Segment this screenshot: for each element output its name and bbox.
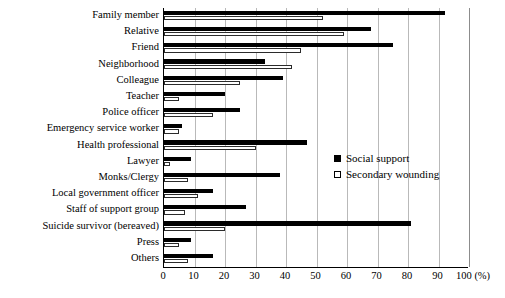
category-label: Friend [2,42,162,53]
x-tick-label-unit: 100 (%) [456,270,490,282]
bar-social-support [164,11,445,15]
x-tick-label-80: 80 [402,270,413,282]
bar-social-support [164,173,280,177]
bar-secondary-wounding [164,227,225,231]
filled-square-icon [334,155,341,162]
bar-secondary-wounding [164,113,213,117]
category-label: Lawyer [2,156,162,167]
bar-social-support [164,205,246,209]
bar-secondary-wounding [164,210,185,214]
gridline-100 [469,8,470,267]
bar-secondary-wounding [164,243,179,247]
category-label: Suicide survivor (bereaved) [2,221,162,232]
bar-social-support [164,124,182,128]
x-axis-tick-labels: 0102030405060708090100 (%) [0,270,505,290]
bar-secondary-wounding [164,194,198,198]
bar-social-support [164,59,265,63]
bar-social-support [164,43,393,47]
bar-secondary-wounding [164,178,188,182]
bar-secondary-wounding [164,162,170,166]
bar-secondary-wounding [164,65,292,69]
x-tick-label-40: 40 [280,270,291,282]
category-label: Police officer [2,107,162,118]
category-label: Relative [2,26,162,37]
x-axis-line [163,267,468,268]
bar-secondary-wounding [164,97,179,101]
bar-secondary-wounding [164,16,323,20]
category-label: Emergency service worker [2,123,162,134]
legend-label: Social support [346,152,409,164]
legend-item: Secondary wounding [334,166,474,182]
x-tick-label-20: 20 [219,270,230,282]
category-label: Family member [2,10,162,21]
category-label: Neighborhood [2,59,162,70]
bar-social-support [164,221,411,225]
category-label: Teacher [2,91,162,102]
bar-social-support [164,140,307,144]
plot-area [163,8,468,267]
bar-social-support [164,92,225,96]
bar-social-support [164,27,371,31]
bar-secondary-wounding [164,129,179,133]
bar-secondary-wounding [164,81,240,85]
bar-secondary-wounding [164,146,256,150]
chart-legend: Social supportSecondary wounding [334,150,474,182]
horizontal-bar-chart: Family memberRelativeFriendNeighborhoodC… [0,0,505,298]
x-tick-label-60: 60 [341,270,352,282]
category-label: Press [2,237,162,248]
category-label: Local government officer [2,188,162,199]
legend-item: Social support [334,150,474,166]
x-tick-label-30: 30 [249,270,260,282]
category-label: Colleague [2,75,162,86]
bar-secondary-wounding [164,48,301,52]
gridline-80 [408,8,409,267]
category-label: Monks/Clergy [2,172,162,183]
bar-social-support [164,157,191,161]
bar-social-support [164,108,240,112]
category-label: Staff of support group [2,204,162,215]
hollow-square-icon [334,171,341,178]
bar-social-support [164,76,283,80]
gridline-90 [439,8,440,267]
category-label: Health professional [2,140,162,151]
x-tick-label-70: 70 [371,270,382,282]
x-tick-label-50: 50 [310,270,321,282]
bar-social-support [164,189,213,193]
bar-social-support [164,238,191,242]
legend-label: Secondary wounding [346,168,439,180]
bar-social-support [164,254,213,258]
category-axis-labels: Family memberRelativeFriendNeighborhoodC… [0,8,162,267]
x-tick-label-90: 90 [432,270,443,282]
x-tick-label-0: 0 [160,270,165,282]
bar-secondary-wounding [164,259,188,263]
bar-secondary-wounding [164,32,344,36]
x-tick-label-10: 10 [188,270,199,282]
category-label: Others [2,253,162,264]
